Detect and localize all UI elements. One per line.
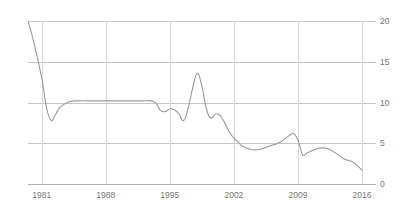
y-tick-label-20: 20	[380, 16, 390, 26]
y-tick-labels: 05101520	[380, 16, 390, 189]
x-tick-label-1981: 1981	[32, 190, 51, 200]
x-tick-label-2002: 2002	[224, 190, 243, 200]
line-chart: 05101520 198119881995200220092016	[0, 0, 405, 212]
vertical-gridlines	[43, 21, 363, 184]
y-tick-label-0: 0	[380, 179, 385, 189]
x-tick-labels: 198119881995200220092016	[32, 190, 371, 200]
axes	[28, 21, 376, 185]
x-tick-label-2009: 2009	[288, 190, 307, 200]
series-group	[28, 22, 362, 170]
horizontal-gridlines	[28, 22, 376, 185]
x-tick-label-1988: 1988	[96, 190, 115, 200]
y-tick-label-15: 15	[380, 57, 390, 67]
y-tick-label-10: 10	[380, 98, 390, 108]
y-tick-label-5: 5	[380, 138, 385, 148]
x-tick-label-2016: 2016	[353, 190, 372, 200]
chart-canvas: 05101520 198119881995200220092016	[0, 0, 405, 212]
x-tick-label-1995: 1995	[160, 190, 179, 200]
series-line-value	[28, 22, 362, 170]
